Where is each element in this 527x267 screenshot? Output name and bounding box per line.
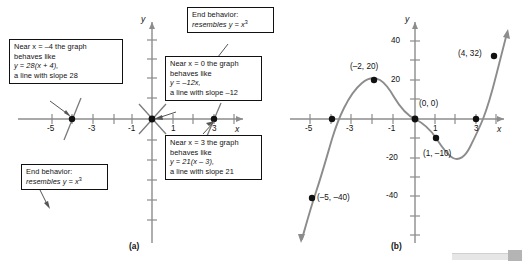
callout-end-behavior-top-line2: resembles y = x3 (192, 20, 269, 30)
panel-b-data-points (309, 53, 497, 201)
callout-end-behavior-top-text: resembles y = x (192, 20, 245, 29)
panel-b-x-axis-label: x (497, 124, 501, 134)
panel-a-tick-minus1: -1 (128, 124, 135, 133)
callout-near-x-minus-4-line2: behaves like (14, 52, 118, 62)
point-label-1-neg10: (1, –10) (423, 149, 451, 158)
callout-near-x-0-line4: a line with slope –12 (170, 88, 257, 98)
panel-b-tick-minus5: -5 (305, 124, 312, 133)
panel-a-x-axis-label: x (235, 124, 239, 134)
point-label-neg5-neg40: (–5, –40) (317, 193, 350, 202)
callout-near-x-minus-4-line4: a line with slope 28 (14, 71, 118, 81)
callout-end-behavior-bottom-line2: resembles y = x3 (26, 177, 103, 187)
panel-b-figure: x y -5 -3 -1 1 3 40 20 -20 -40 (–2, 20) … (264, 0, 527, 267)
point-label-neg2-20: (–2, 20) (350, 62, 378, 71)
panel-a-y-axis (147, 22, 157, 243)
callout-end-behavior-bottom-exponent: 3 (79, 175, 82, 181)
callout-near-x-0: Near x = 0 the graph behaves like y = –1… (165, 56, 262, 101)
callout-near-x-minus-4-line1: Near x = –4 the graph (14, 42, 118, 52)
panel-b-tick-minus3: -3 (346, 124, 353, 133)
callout-end-behavior-bottom-text: resembles y = x (26, 177, 79, 186)
panel-a-tick-minus3: -3 (88, 124, 95, 133)
callout-end-behavior-top: End behavior: resembles y = x3 (187, 7, 274, 33)
point-label-4-32: (4, 32) (458, 49, 482, 58)
callout-near-x-3-line2: behaves like (170, 148, 257, 158)
panel-b-curve (298, 29, 510, 243)
panel-b-caption: (b) (391, 241, 402, 251)
callout-near-x-minus-4: Near x = –4 the graph behaves like y = 2… (9, 39, 123, 84)
panel-a-caption: (a) (129, 241, 139, 251)
callout-near-x-3: Near x = 3 the graph behaves like y = 21… (165, 135, 262, 180)
panel-b-x-axis (290, 114, 504, 124)
panel-a-tick-3: 3 (212, 124, 217, 133)
callout-near-x-3-line4: a line with slope 21 (170, 167, 257, 177)
horizontal-scrollbar-thumb[interactable] (508, 250, 522, 261)
panel-a-y-axis-label: y (141, 14, 145, 24)
callout-near-x-0-line2: behaves like (170, 69, 257, 79)
panel-b-tick-20: 20 (391, 75, 400, 84)
panel-b-tick-40: 40 (391, 36, 400, 45)
callout-near-x-3-line3: y = 21(x – 3), (170, 157, 257, 167)
point-label-0-0: (0, 0) (419, 99, 438, 108)
callout-near-x-3-line1: Near x = 3 the graph (170, 138, 257, 148)
panel-b-tick-minus40: -40 (386, 191, 398, 200)
callout-near-x-0-line1: Near x = 0 the graph (170, 59, 257, 69)
panel-b-y-axis-label: y (405, 14, 409, 24)
callout-end-behavior-top-exponent: 3 (245, 18, 248, 24)
panel-a-tick-1: 1 (171, 124, 176, 133)
callout-end-behavior-bottom-line1: End behavior: (26, 167, 103, 177)
panel-b-tick-1: 1 (433, 124, 438, 133)
panel-b-tick-3: 3 (474, 124, 479, 133)
panel-a-tick-minus5: -5 (47, 124, 54, 133)
panel-b-y-axis (410, 22, 420, 243)
panel-b-tick-minus1: -1 (388, 124, 395, 133)
callout-near-x-minus-4-line3: y = 28(x + 4), (14, 61, 118, 71)
panel-b-tick-minus20: -20 (386, 153, 398, 162)
callout-end-behavior-bottom: End behavior: resembles y = x3 (21, 164, 108, 190)
panel-a-figure: x y -5 -3 -1 1 3 Near x = –4 the graph b… (0, 0, 264, 267)
callout-end-behavior-top-line1: End behavior: (192, 10, 269, 20)
callout-near-x-0-line3: y = –12x, (170, 78, 257, 88)
